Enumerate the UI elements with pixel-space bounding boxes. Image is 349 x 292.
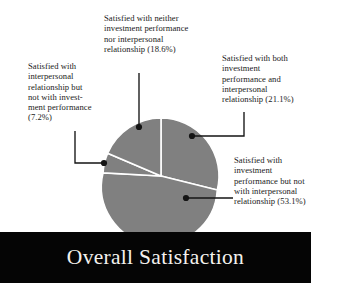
pie-label-interpersonal-only: Satisfied with interpersonal relationshi… [28, 61, 124, 123]
pie-label-investment-only: Satisfied with investment performance bu… [234, 155, 342, 206]
leader-dot-investment-only [183, 195, 189, 201]
pie-label-both: Satisfied with both investment performan… [222, 53, 334, 104]
chart-title: Overall Satisfaction [0, 232, 311, 283]
chart-figure: Satisfied with neither investment perfor… [0, 0, 349, 292]
leader-dot-both [189, 133, 195, 139]
leader-dot-neither [136, 124, 142, 130]
leader-dot-interpersonal-only [101, 160, 107, 166]
pie-slices [101, 118, 219, 245]
pie-label-neither: Satisfied with neither investment perfor… [104, 13, 212, 54]
title-banner: Overall Satisfaction [0, 232, 311, 283]
leader-line-interpersonal-only [75, 131, 104, 163]
